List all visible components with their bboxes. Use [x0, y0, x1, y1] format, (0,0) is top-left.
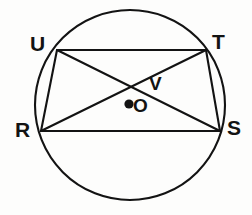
center-label-o: O	[133, 96, 148, 115]
intersection-label-v: V	[149, 74, 162, 93]
geometry-figure: U T R S V O	[0, 0, 252, 215]
vertex-label-s: S	[227, 117, 241, 138]
diagonal-US	[57, 50, 220, 131]
vertex-label-t: T	[212, 31, 225, 52]
vertex-label-r: R	[15, 119, 30, 140]
side-RU	[41, 50, 57, 131]
diagonal-RT	[41, 50, 206, 131]
vertex-label-u: U	[30, 33, 45, 54]
side-TS	[206, 50, 220, 131]
